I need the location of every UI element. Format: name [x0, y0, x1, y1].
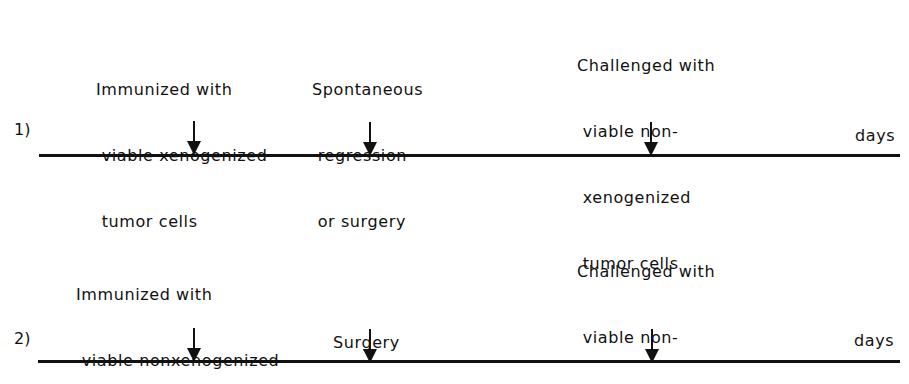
label-line: Immunized with — [76, 284, 279, 306]
label-line: Challenged with — [577, 261, 715, 283]
axis-label-days: days — [855, 126, 895, 145]
arrow-down-icon — [644, 329, 660, 363]
timeline-protocol-2: Immunized with viable nonxenogenized tum… — [0, 200, 909, 380]
label-line: Challenged with — [577, 55, 715, 77]
timeline-axis — [39, 154, 900, 157]
label-line: Immunized with — [96, 79, 267, 101]
label-line: Spontaneous — [312, 79, 423, 101]
arrow-down-icon — [186, 121, 202, 155]
protocol-number: 1) — [14, 120, 30, 139]
timeline-protocol-1: Immunized with viable xenogenized tumor … — [0, 0, 909, 180]
protocol-number: 2) — [14, 329, 30, 348]
arrow-down-icon — [362, 122, 378, 156]
arrow-down-icon — [362, 329, 378, 363]
arrow-down-icon — [643, 122, 659, 156]
axis-label-days: days — [854, 331, 894, 350]
timeline-axis — [38, 360, 900, 363]
arrow-down-icon — [186, 328, 202, 362]
